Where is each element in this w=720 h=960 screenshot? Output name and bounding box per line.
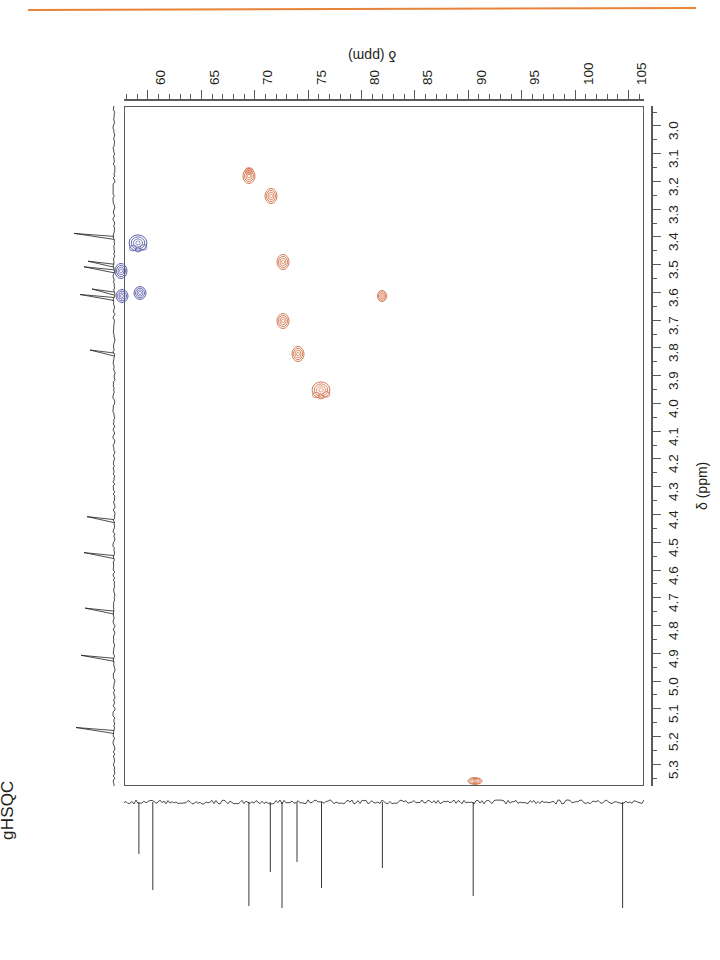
x-axis-minor-tick [180,94,181,99]
x-axis-minor-tick [233,94,234,99]
y-axis-minor-tick [652,195,657,196]
contour-peak [285,338,310,370]
x-axis-minor-tick [436,94,437,99]
y-axis-tick-label: 5.3 [666,760,681,779]
y-axis-minor-tick [652,250,657,251]
y-axis-minor-tick [652,778,657,779]
x-axis-tick-label: 70 [260,70,275,85]
y-axis-major-tick [652,375,661,376]
y-axis-tick-label: 3.9 [666,371,681,390]
x-axis-minor-tick [382,94,383,99]
y-axis-major-tick [652,209,661,210]
x-axis-tick-label: 85 [420,70,435,85]
y-axis-major-tick [652,125,661,126]
y-axis-minor-tick [652,722,657,723]
x-axis-minor-tick [553,94,554,99]
x-axis-tick-label: 100 [581,62,596,85]
y-axis-major-tick [652,403,661,404]
y-axis-minor-tick [652,694,657,695]
y-axis-tick-label: 3.5 [666,260,681,279]
x-axis-major-tick [414,90,415,99]
contour-plot-area [124,106,644,786]
y-axis-tick-label: 4.7 [666,593,681,612]
x-axis-minor-tick [393,94,394,99]
contour-peak [236,161,261,193]
y-axis-minor-tick [652,583,657,584]
y-axis-major-tick [652,514,661,515]
x-axis-major-tick [254,90,255,99]
y-axis-tick-label: 4.1 [666,427,681,446]
x-axis-minor-tick [532,94,533,99]
y-axis-tick-label: 3.3 [666,205,681,224]
y-axis-major-tick [652,181,661,182]
y-axis-minor-tick [652,334,657,335]
y-axis-minor-tick [652,556,657,557]
x-axis-major-tick [575,90,576,99]
y-axis-tick-label: 5.0 [666,677,681,696]
x-axis-minor-tick [276,94,277,99]
x-axis-minor-tick [318,94,319,99]
contour-peak [259,180,284,212]
x-axis-minor-tick [457,94,458,99]
x-axis-major-tick [361,90,362,99]
y-axis-tick-label: 4.0 [666,399,681,418]
y-axis-tick-label: 5.1 [666,705,681,724]
y-axis-tick-label: 4.4 [666,510,681,529]
x-axis-tick-label: 60 [153,70,168,85]
y-axis-minor-tick [652,361,657,362]
y-axis-tick-label: 4.9 [666,649,681,668]
y-axis-minor-tick [652,417,657,418]
x-axis-tick-label: 65 [207,70,222,85]
y-axis-minor-tick [652,389,657,390]
x-axis-minor-tick [607,94,608,99]
x-axis-minor-tick [244,94,245,99]
y-axis-major-tick [652,236,661,237]
x-axis-minor-tick [190,94,191,99]
y-axis-major-tick [652,570,661,571]
x-axis-major-tick [201,90,202,99]
proton-1d-projection [58,106,122,786]
y-axis-minor-tick [652,639,657,640]
y-axis-major-tick [652,708,661,709]
y-axis-major-tick [652,653,661,654]
y-axis-major-tick [652,736,661,737]
x-axis-minor-tick [511,94,512,99]
contour-peak [270,247,295,279]
x-axis-minor-tick [329,94,330,99]
x-axis-minor-tick [297,94,298,99]
y-axis-minor-tick [652,167,657,168]
x-axis-major-tick [468,90,469,99]
x-axis-minor-tick [543,94,544,99]
x-axis-minor-tick [212,94,213,99]
y-axis-major-tick [652,764,661,765]
y-axis-tick-label: 4.3 [666,482,681,501]
y-axis-major-tick [652,347,661,348]
x-axis-minor-tick [265,94,266,99]
y-axis-minor-tick [652,278,657,279]
x-axis-minor-tick [169,94,170,99]
y-axis-minor-tick [652,472,657,473]
y-axis-tick-label: 3.2 [666,177,681,196]
y-axis-major-tick [652,264,661,265]
y-axis-major-tick [652,153,661,154]
x-axis-minor-tick [639,94,640,99]
x-axis-minor-tick [596,94,597,99]
x-axis-minor-tick [340,94,341,99]
carbon-1d-projection [124,788,644,908]
y-axis-minor-tick [652,139,657,140]
y-axis-major-tick [652,431,661,432]
header-accent-rule [28,7,696,11]
x-axis-minor-tick [137,94,138,99]
y-axis-major-tick [652,681,661,682]
x-axis [124,99,644,101]
y-axis-tick-label: 5.2 [666,732,681,751]
x-axis-minor-tick [489,94,490,99]
x-axis-minor-tick [286,94,287,99]
y-axis-minor-tick [652,112,657,113]
x-axis-tick-label: 75 [314,70,329,85]
y-axis-major-tick [652,625,661,626]
contour-peak [304,372,340,408]
y-axis-major-tick [652,458,661,459]
y-axis-minor-tick [652,528,657,529]
x-axis-minor-tick [617,94,618,99]
